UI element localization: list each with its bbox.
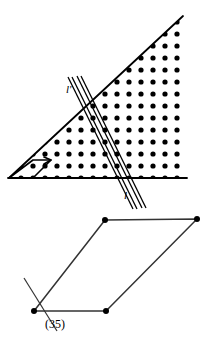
lattice-dot: [30, 43, 35, 48]
lattice-dot: [18, 79, 23, 84]
lattice-dot: [162, 115, 167, 120]
lattice-dot: [174, 43, 179, 48]
lattice-dot: [138, 91, 143, 96]
lattice-dot: [54, 91, 59, 96]
lattice-dot: [66, 43, 71, 48]
lattice-dot: [6, 79, 11, 84]
lattice-dot: [30, 31, 35, 36]
lattice-dot: [102, 31, 107, 36]
lattice-dot: [66, 31, 71, 36]
parallelogram-vertex-dot: [102, 217, 108, 223]
lattice-dot: [162, 55, 167, 60]
lattice-dot: [126, 79, 131, 84]
lattice-dot: [18, 31, 23, 36]
lattice-dot: [66, 7, 71, 12]
lattice-dot: [150, 127, 155, 132]
lattice-dot: [54, 19, 59, 24]
lattice-dot: [186, 139, 191, 144]
lattice-dot: [18, 67, 23, 72]
lattice-dot: [138, 79, 143, 84]
lattice-dot: [54, 43, 59, 48]
lattice-dot: [90, 31, 95, 36]
lattice-dot: [186, 79, 191, 84]
lattice-dot: [162, 43, 167, 48]
lattice-dot: [174, 67, 179, 72]
lattice-dot: [114, 43, 119, 48]
lattice-dot: [186, 151, 191, 156]
triangle-hypotenuse-edge: [9, 16, 183, 178]
lattice-dot: [174, 7, 179, 12]
lattice-dot: [54, 115, 59, 120]
lattice-dot: [138, 127, 143, 132]
lattice-dot: [54, 55, 59, 60]
lattice-dot: [126, 163, 131, 168]
lattice-dot: [42, 115, 47, 120]
lattice-dot: [102, 91, 107, 96]
lattice-dot: [66, 67, 71, 72]
lattice-dot: [186, 91, 191, 96]
lattice-dot: [150, 7, 155, 12]
lattice-dot: [150, 163, 155, 168]
lattice-dot: [174, 151, 179, 156]
lattice-dot: [78, 115, 83, 120]
lattice-dot: [6, 31, 11, 36]
lattice-dot: [18, 127, 23, 132]
lattice-dot: [54, 151, 59, 156]
lattice-dot: [18, 103, 23, 108]
parallelogram-vertex-dot: [103, 308, 109, 314]
lattice-dot: [54, 31, 59, 36]
lattice-dot: [18, 7, 23, 12]
lattice-dot: [126, 43, 131, 48]
lattice-dot: [102, 67, 107, 72]
lattice-dot: [138, 31, 143, 36]
lattice-dot: [90, 163, 95, 168]
lattice-dot: [126, 7, 131, 12]
lattice-dot: [30, 7, 35, 12]
lattice-dot: [150, 151, 155, 156]
lattice-dot: [42, 43, 47, 48]
lattice-dot: [66, 19, 71, 24]
lattice-dot: [114, 7, 119, 12]
lattice-dot: [66, 55, 71, 60]
lattice-dot: [90, 79, 95, 84]
lattice-dot: [174, 55, 179, 60]
lattice-dot: [6, 67, 11, 72]
line-l-label: l: [124, 190, 127, 201]
lattice-dot: [114, 55, 119, 60]
lattice-dot: [126, 31, 131, 36]
lattice-dot: [6, 103, 11, 108]
lattice-dot: [186, 67, 191, 72]
lattice-dot: [42, 151, 47, 156]
lattice-dot: [78, 67, 83, 72]
lattice-dot: [138, 139, 143, 144]
lattice-dot: [30, 115, 35, 120]
lattice-dot: [42, 91, 47, 96]
lattice-dot: [114, 103, 119, 108]
lattice-dot: [18, 91, 23, 96]
lattice-dot: [150, 67, 155, 72]
lattice-dot: [90, 151, 95, 156]
lattice-dot: [126, 91, 131, 96]
lattice-dot: [18, 151, 23, 156]
lattice-dot: [150, 19, 155, 24]
lattice-dot: [102, 163, 107, 168]
lattice-dot: [186, 103, 191, 108]
lattice-dot: [186, 115, 191, 120]
lattice-dot: [150, 103, 155, 108]
lattice-dot: [150, 79, 155, 84]
lattice-dot: [6, 127, 11, 132]
lattice-dot: [174, 139, 179, 144]
lattice-dot: [138, 7, 143, 12]
lattice-dot: [78, 55, 83, 60]
lattice-dot: [174, 163, 179, 168]
lattice-dot: [102, 43, 107, 48]
lattice-dot: [78, 7, 83, 12]
lattice-dot: [126, 55, 131, 60]
lattice-dot: [138, 163, 143, 168]
lattice-dot: [6, 55, 11, 60]
lattice-dot: [150, 55, 155, 60]
lattice-dot: [174, 127, 179, 132]
lattice-dot: [18, 55, 23, 60]
lattice-dot: [114, 139, 119, 144]
lattice-dot: [126, 127, 131, 132]
